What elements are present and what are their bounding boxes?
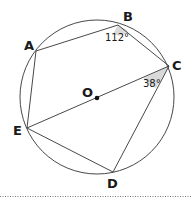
- label-c: C: [172, 58, 182, 73]
- label-e: E: [13, 123, 22, 138]
- angle-c-value: 38°: [143, 78, 161, 89]
- label-o: O: [82, 85, 93, 100]
- center-point: [95, 96, 100, 101]
- label-d: D: [107, 176, 118, 191]
- label-a: A: [24, 38, 34, 53]
- label-b: B: [123, 9, 133, 24]
- angle-b-value: 112°: [105, 32, 129, 43]
- geometry-diagram: B A C O E D 112° 38°: [0, 0, 191, 201]
